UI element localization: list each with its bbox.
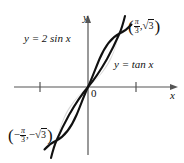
x-axis-label: x [170, 90, 175, 101]
origin-label: 0 [91, 88, 97, 99]
math-graph-figure: y = 2 sin x y = tan x y x 0 (π3,√3) (−π3… [0, 0, 184, 163]
paren-close: ) [47, 126, 53, 145]
curve-label-sin: y = 2 sin x [24, 33, 71, 44]
y-axis-label: y [83, 12, 88, 23]
point-label-upper: (π3,√3) [128, 18, 160, 36]
radical-sign: √ [35, 128, 41, 140]
curve-label-tan: y = tan x [114, 59, 154, 70]
point-label-lower: (−π3,−√3) [8, 127, 53, 145]
paren-close: ) [154, 17, 160, 36]
